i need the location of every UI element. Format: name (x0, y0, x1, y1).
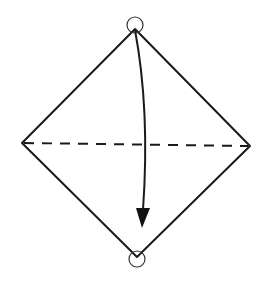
paper-diamond (22, 29, 250, 257)
valley-fold-line (24, 143, 248, 146)
arrowhead-icon (136, 208, 150, 228)
origami-diagram (0, 0, 273, 287)
fold-arrow-shaft (135, 30, 145, 210)
diagram-canvas (0, 0, 273, 287)
bottom-point-circle (129, 251, 145, 267)
